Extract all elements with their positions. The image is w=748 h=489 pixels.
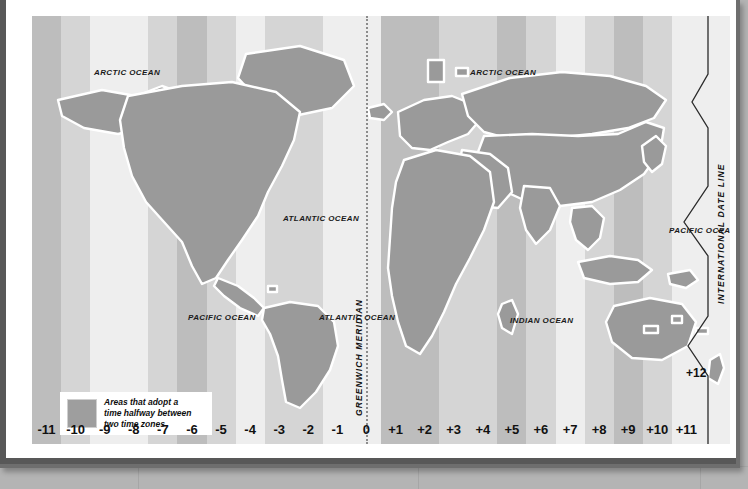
zone-number-plus9[interactable]: +9: [614, 422, 643, 437]
landmass-indonesia: [578, 256, 652, 284]
poster-frame-inner: ARCTIC OCEANARCTIC OCEANATLANTIC OCEANPA…: [0, 0, 736, 464]
zone-number-plus11[interactable]: +11: [672, 422, 701, 437]
zone-number-plus10[interactable]: +10: [643, 422, 672, 437]
landmass-india: [520, 186, 560, 244]
ocean-label-arctic-ocean-1: ARCTIC OCEAN: [470, 68, 536, 77]
greenwich-meridian-line: [366, 16, 368, 444]
zone-label-plus12: +12: [686, 366, 706, 380]
ocean-label-pacific-ocean-3: PACIFIC OCEAN: [188, 313, 256, 322]
landmass-new-zealand: [708, 354, 724, 384]
zone-number-plus4[interactable]: +4: [468, 422, 497, 437]
zone-number-minus3[interactable]: -3: [265, 422, 294, 437]
landmass-papua-new-guinea: [668, 270, 698, 288]
poster-paper: ARCTIC OCEANARCTIC OCEANATLANTIC OCEANPA…: [6, 0, 736, 458]
paper-bottom-margin: [6, 444, 736, 458]
landmass-southeast-asia: [570, 206, 604, 250]
landmass-arctic-island: [456, 68, 468, 76]
landmass-pacific-island: [672, 316, 682, 323]
landmass-iceland: [368, 104, 392, 120]
zone-number-minus5[interactable]: -5: [207, 422, 236, 437]
international-date-line-label: INTERNATIONAL DATE LINE: [716, 163, 726, 304]
zone-number-plus5[interactable]: +5: [497, 422, 526, 437]
zone-number-minus1[interactable]: -1: [323, 422, 352, 437]
landmass-pacific-island: [644, 326, 658, 333]
greenwich-meridian-label: GREENWICH MERIDIAN: [354, 299, 364, 416]
zone-number-plus3[interactable]: +3: [439, 422, 468, 437]
landmass-arctic-island: [428, 60, 444, 82]
zone-number-minus9[interactable]: -9: [90, 422, 119, 437]
time-zone-number-strip: -11-10-9-8-7-6-5-4-3-2-10+1+2+3+4+5+6+7+…: [32, 408, 730, 444]
zone-number-minus10[interactable]: -10: [61, 422, 90, 437]
zone-number-minus8[interactable]: -8: [119, 422, 148, 437]
landmass-africa: [388, 150, 494, 354]
ocean-label-indian-ocean-5: INDIAN OCEAN: [510, 316, 573, 325]
legend-line-1: Areas that adopt a: [104, 397, 208, 408]
continents-layer: [32, 16, 730, 444]
zone-number-minus7[interactable]: -7: [148, 422, 177, 437]
zone-number-plus6[interactable]: +6: [526, 422, 555, 437]
landmass-north-america: [120, 82, 300, 284]
landmass-caribbean-island: [268, 286, 277, 292]
poster-frame: ARCTIC OCEANARCTIC OCEANATLANTIC OCEANPA…: [0, 0, 740, 468]
zone-number-minus11[interactable]: -11: [32, 422, 61, 437]
landmass-central-america: [214, 278, 264, 316]
zone-number-plus7[interactable]: +7: [556, 422, 585, 437]
zone-number-minus2[interactable]: -2: [294, 422, 323, 437]
zone-number-0[interactable]: 0: [352, 422, 381, 437]
ocean-label-atlantic-ocean-2: ATLANTIC OCEAN: [283, 214, 359, 223]
ocean-label-arctic-ocean-0: ARCTIC OCEAN: [94, 68, 160, 77]
zone-number-minus6[interactable]: -6: [177, 422, 206, 437]
zone-number-plus2[interactable]: +2: [410, 422, 439, 437]
zone-number-plus8[interactable]: +8: [585, 422, 614, 437]
zone-number-minus4[interactable]: -4: [236, 422, 265, 437]
world-time-zone-map[interactable]: ARCTIC OCEANARCTIC OCEANATLANTIC OCEANPA…: [32, 16, 730, 444]
zone-number-plus1[interactable]: +1: [381, 422, 410, 437]
